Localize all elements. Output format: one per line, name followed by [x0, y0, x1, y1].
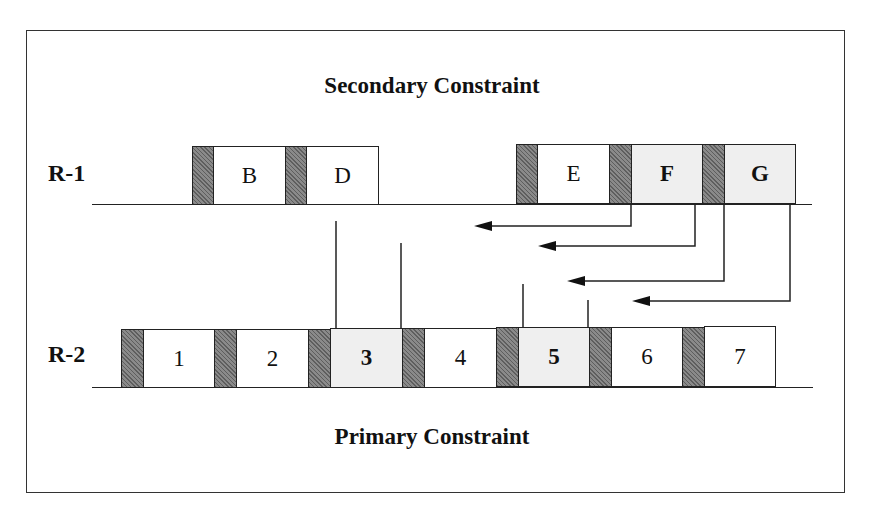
arrow-head-icon	[474, 221, 492, 231]
connector-lines	[0, 0, 876, 522]
arrow-head-icon	[567, 276, 585, 286]
arrow-head-icon	[632, 296, 650, 306]
arrow-head-icon	[538, 241, 556, 251]
